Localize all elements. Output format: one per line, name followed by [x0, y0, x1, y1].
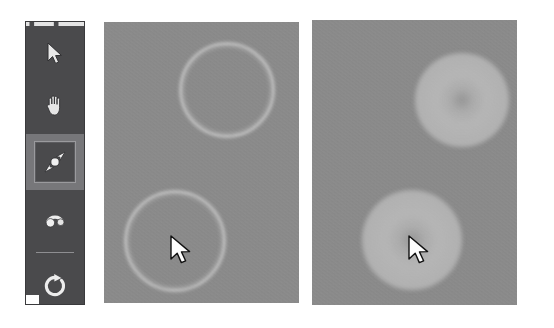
tool-reset[interactable] [26, 260, 84, 312]
shape-disc-upper-core [448, 86, 476, 114]
tool-rotate-inner [34, 197, 76, 239]
tool-select-arrow[interactable] [26, 28, 84, 80]
tool-rotate[interactable] [26, 192, 84, 244]
rotate-arc-icon [41, 206, 69, 230]
canvas-panel-before[interactable] [104, 22, 299, 303]
tool-pan-hand[interactable] [26, 80, 84, 132]
tool-pan-hand-inner [34, 85, 76, 127]
tool-reset-inner [34, 265, 76, 307]
tool-scale[interactable] [26, 134, 84, 190]
tool-scale-inner [34, 141, 76, 183]
circular-refresh-icon [42, 273, 68, 299]
tool-select-arrow-inner [34, 33, 76, 75]
shape-ring-upper[interactable] [180, 43, 274, 137]
toolbar-divider [36, 252, 74, 253]
scale-arrows-icon [41, 148, 69, 176]
tool-palette[interactable] [26, 22, 84, 304]
shape-ring-lower[interactable] [125, 191, 225, 291]
canvas-panel-after[interactable] [312, 20, 517, 305]
arrow-cursor-icon [46, 42, 64, 66]
shape-disc-lower-core [397, 225, 427, 255]
hand-icon [45, 94, 65, 118]
